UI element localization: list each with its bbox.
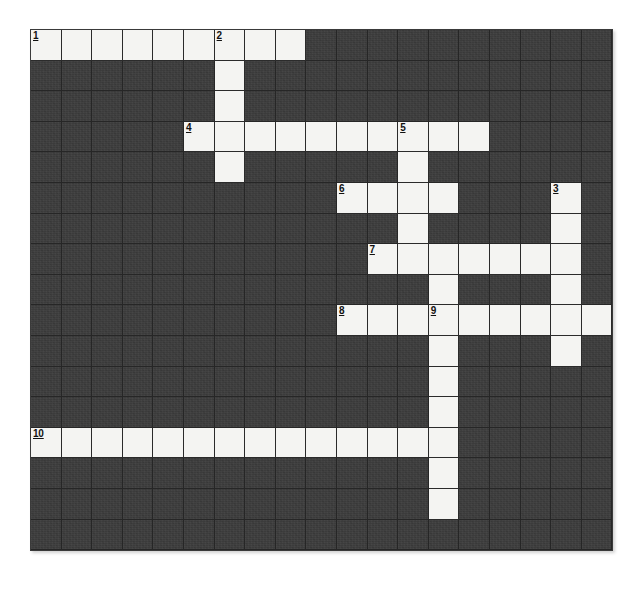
crossword-cell-open[interactable]: [306, 122, 337, 153]
crossword-cell-open[interactable]: [245, 30, 276, 61]
crossword-cell-blocked: [521, 275, 552, 306]
crossword-cell-open[interactable]: [368, 305, 399, 336]
crossword-cell-open[interactable]: [429, 428, 460, 459]
crossword-cell-open[interactable]: [215, 61, 246, 92]
crossword-cell-open[interactable]: 1: [31, 30, 62, 61]
crossword-cell-open[interactable]: [92, 30, 123, 61]
crossword-cell-blocked: [92, 397, 123, 428]
crossword-cell-open[interactable]: [184, 30, 215, 61]
crossword-cell-blocked: [306, 152, 337, 183]
crossword-cell-open[interactable]: [490, 244, 521, 275]
crossword-cell-open[interactable]: [306, 428, 337, 459]
crossword-cell-open[interactable]: [215, 152, 246, 183]
crossword-cell-open[interactable]: [459, 305, 490, 336]
crossword-cell-blocked: [459, 458, 490, 489]
crossword-cell-open[interactable]: [245, 428, 276, 459]
crossword-cell-open[interactable]: [429, 122, 460, 153]
crossword-cell-open[interactable]: 5: [398, 122, 429, 153]
crossword-cell-blocked: [245, 458, 276, 489]
crossword-cell-open[interactable]: [521, 305, 552, 336]
crossword-cell-blocked: [459, 61, 490, 92]
crossword-cell-open[interactable]: [276, 122, 307, 153]
crossword-cell-open[interactable]: [429, 183, 460, 214]
crossword-cell-open[interactable]: [153, 428, 184, 459]
crossword-cell-blocked: [429, 30, 460, 61]
crossword-cell-blocked: [92, 520, 123, 551]
crossword-cell-blocked: [490, 520, 521, 551]
crossword-cell-open[interactable]: [429, 275, 460, 306]
crossword-cell-open[interactable]: [368, 183, 399, 214]
crossword-grid[interactable]: 12456378910: [30, 29, 613, 551]
crossword-cell-open[interactable]: [123, 428, 154, 459]
cell-clue-number: 6: [339, 183, 344, 195]
crossword-cell-open[interactable]: [398, 428, 429, 459]
crossword-cell-blocked: [551, 397, 582, 428]
crossword-cell-blocked: [582, 336, 613, 367]
crossword-cell-open[interactable]: [62, 30, 93, 61]
crossword-cell-open[interactable]: [429, 244, 460, 275]
crossword-cell-open[interactable]: [459, 122, 490, 153]
crossword-cell-blocked: [245, 152, 276, 183]
crossword-cell-open[interactable]: [429, 367, 460, 398]
crossword-cell-blocked: [62, 336, 93, 367]
crossword-cell-blocked: [245, 91, 276, 122]
crossword-cell-open[interactable]: [215, 122, 246, 153]
crossword-cell-blocked: [337, 152, 368, 183]
crossword-cell-open[interactable]: [184, 428, 215, 459]
crossword-cell-open[interactable]: [153, 30, 184, 61]
crossword-cell-open[interactable]: 10: [31, 428, 62, 459]
crossword-cell-blocked: [184, 520, 215, 551]
crossword-cell-open[interactable]: 9: [429, 305, 460, 336]
crossword-cell-blocked: [276, 275, 307, 306]
crossword-cell-open[interactable]: [276, 30, 307, 61]
crossword-cell-blocked: [459, 367, 490, 398]
crossword-cell-open[interactable]: [551, 336, 582, 367]
crossword-cell-open[interactable]: [398, 244, 429, 275]
crossword-cell-blocked: [215, 305, 246, 336]
crossword-cell-open[interactable]: [521, 244, 552, 275]
crossword-cell-blocked: [123, 520, 154, 551]
crossword-cell-open[interactable]: [368, 428, 399, 459]
crossword-cell-open[interactable]: [337, 428, 368, 459]
crossword-cell-open[interactable]: [551, 275, 582, 306]
crossword-cell-open[interactable]: [398, 152, 429, 183]
crossword-cell-open[interactable]: [398, 214, 429, 245]
crossword-cell-open[interactable]: 7: [368, 244, 399, 275]
crossword-cell-open[interactable]: [368, 122, 399, 153]
crossword-cell-open[interactable]: [215, 428, 246, 459]
crossword-cell-blocked: [551, 489, 582, 520]
crossword-cell-blocked: [306, 336, 337, 367]
crossword-cell-open[interactable]: 2: [215, 30, 246, 61]
crossword-cell-open[interactable]: [215, 91, 246, 122]
crossword-cell-blocked: [459, 336, 490, 367]
crossword-cell-open[interactable]: 6: [337, 183, 368, 214]
crossword-cell-open[interactable]: [123, 30, 154, 61]
crossword-cell-open[interactable]: [62, 428, 93, 459]
crossword-cell-open[interactable]: [245, 122, 276, 153]
crossword-cell-open[interactable]: [429, 458, 460, 489]
crossword-cell-blocked: [153, 520, 184, 551]
crossword-cell-open[interactable]: [490, 305, 521, 336]
crossword-cell-open[interactable]: [459, 244, 490, 275]
crossword-cell-open[interactable]: [551, 244, 582, 275]
crossword-cell-blocked: [215, 458, 246, 489]
crossword-cell-open[interactable]: 3: [551, 183, 582, 214]
crossword-cell-open[interactable]: [582, 305, 613, 336]
crossword-cell-open[interactable]: [398, 183, 429, 214]
crossword-cell-open[interactable]: 8: [337, 305, 368, 336]
crossword-cell-blocked: [92, 91, 123, 122]
crossword-cell-blocked: [337, 30, 368, 61]
crossword-cell-open[interactable]: [429, 336, 460, 367]
crossword-cell-open[interactable]: [429, 397, 460, 428]
crossword-cell-open[interactable]: [398, 305, 429, 336]
crossword-cell-blocked: [31, 520, 62, 551]
crossword-cell-open[interactable]: [337, 122, 368, 153]
crossword-cell-open[interactable]: [276, 428, 307, 459]
crossword-cell-open[interactable]: [429, 489, 460, 520]
cell-clue-number: 3: [553, 183, 558, 195]
crossword-cell-open[interactable]: [551, 214, 582, 245]
crossword-cell-open[interactable]: [92, 428, 123, 459]
crossword-cell-blocked: [521, 397, 552, 428]
crossword-cell-open[interactable]: [551, 305, 582, 336]
crossword-cell-open[interactable]: 4: [184, 122, 215, 153]
